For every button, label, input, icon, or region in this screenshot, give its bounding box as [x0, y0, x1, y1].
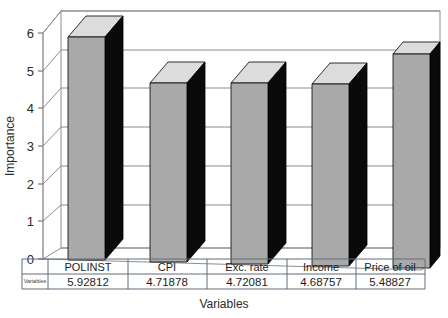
- table-column-header: Income: [303, 261, 339, 273]
- chart-figure: 6 5 4 3 2 1 0 Importance: [0, 0, 448, 318]
- y-tick-label: 6: [27, 26, 34, 41]
- table-column-header: POLINST: [64, 261, 111, 273]
- y-tick-label: 4: [27, 101, 34, 116]
- table-cell-value: 4.68757: [300, 276, 342, 288]
- table-column-header: CPI: [158, 261, 176, 273]
- table-cell-value: 5.48827: [369, 276, 411, 288]
- y-axis-title: Importance: [3, 116, 17, 176]
- y-tick-label: 3: [27, 139, 34, 154]
- bar-chart-canvas: 6 5 4 3 2 1 0 Importance: [0, 0, 448, 318]
- y-tick-label: 1: [27, 214, 34, 229]
- table-cell-value: 4.71878: [146, 276, 188, 288]
- bar-polinst: [68, 16, 123, 260]
- y-axis-tick-labels: 6 5 4 3 2 1 0: [27, 26, 34, 267]
- table-column-header: Exc. rate: [225, 261, 268, 273]
- table-column-header: Price of oil: [364, 261, 415, 273]
- data-table: Variables POLINST CPI Exc. rate Income P…: [22, 259, 425, 289]
- bar-price-of-oil: [393, 42, 440, 268]
- table-cell-value: 5.92812: [67, 276, 109, 288]
- y-axis-title-text: Importance: [3, 116, 17, 176]
- bar-exc-rate: [231, 62, 286, 264]
- bar-cpi: [150, 62, 205, 262]
- table-cell-value: 4.72081: [226, 276, 268, 288]
- table-row-label: Variables: [24, 278, 47, 284]
- x-axis-title-text: Variables: [199, 297, 248, 311]
- x-axis-title: Variables: [199, 297, 248, 311]
- y-tick-label: 5: [27, 64, 34, 79]
- bar-income: [312, 63, 367, 266]
- y-axis-ticks: [38, 33, 43, 259]
- y-tick-label: 2: [27, 177, 34, 192]
